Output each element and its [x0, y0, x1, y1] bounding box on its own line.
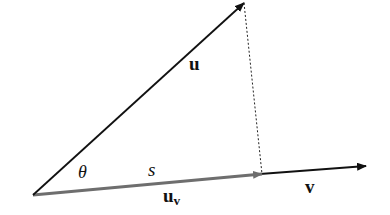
- label-uv-subscript: v: [174, 193, 181, 208]
- u-vector: [33, 3, 244, 195]
- perpendicular-dotted-line: [244, 3, 262, 174]
- label-u-sub-v: uv: [163, 186, 180, 208]
- label-uv-base: u: [163, 185, 174, 206]
- label-theta: θ: [78, 163, 87, 181]
- label-s: s: [148, 160, 155, 179]
- v-vector: [260, 166, 366, 174]
- label-u: u: [189, 54, 200, 73]
- vector-diagram: [0, 0, 390, 215]
- label-v: v: [305, 177, 315, 196]
